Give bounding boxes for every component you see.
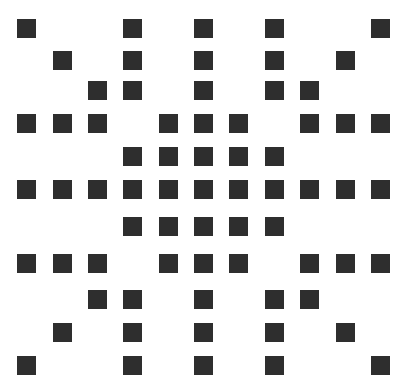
- pattern-square: [88, 114, 107, 133]
- square-pattern: [0, 0, 405, 391]
- pattern-square: [229, 147, 248, 166]
- pattern-square: [123, 217, 142, 236]
- pattern-square: [336, 51, 355, 70]
- pattern-square: [194, 217, 213, 236]
- pattern-square: [159, 147, 178, 166]
- pattern-square: [336, 254, 355, 273]
- pattern-square: [300, 81, 319, 100]
- pattern-square: [123, 290, 142, 309]
- pattern-square: [123, 81, 142, 100]
- pattern-square: [300, 180, 319, 199]
- pattern-square: [194, 147, 213, 166]
- pattern-square: [300, 290, 319, 309]
- pattern-square: [265, 19, 284, 38]
- pattern-square: [300, 254, 319, 273]
- pattern-square: [371, 356, 390, 375]
- pattern-square: [123, 19, 142, 38]
- pattern-square: [123, 180, 142, 199]
- pattern-square: [336, 180, 355, 199]
- pattern-square: [265, 180, 284, 199]
- pattern-square: [229, 217, 248, 236]
- pattern-square: [53, 323, 72, 342]
- pattern-square: [194, 356, 213, 375]
- pattern-square: [123, 147, 142, 166]
- pattern-square: [17, 180, 36, 199]
- pattern-square: [194, 51, 213, 70]
- pattern-square: [371, 114, 390, 133]
- pattern-square: [123, 356, 142, 375]
- pattern-square: [88, 81, 107, 100]
- pattern-square: [194, 114, 213, 133]
- pattern-square: [265, 356, 284, 375]
- pattern-square: [17, 19, 36, 38]
- pattern-square: [229, 180, 248, 199]
- pattern-square: [194, 254, 213, 273]
- pattern-square: [88, 290, 107, 309]
- pattern-square: [300, 114, 319, 133]
- pattern-square: [53, 254, 72, 273]
- pattern-square: [194, 323, 213, 342]
- pattern-square: [17, 114, 36, 133]
- pattern-square: [53, 114, 72, 133]
- pattern-square: [265, 290, 284, 309]
- pattern-square: [159, 114, 178, 133]
- pattern-square: [88, 180, 107, 199]
- pattern-square: [371, 180, 390, 199]
- pattern-square: [265, 217, 284, 236]
- pattern-square: [123, 323, 142, 342]
- pattern-square: [159, 254, 178, 273]
- pattern-square: [265, 51, 284, 70]
- pattern-square: [371, 19, 390, 38]
- pattern-square: [17, 254, 36, 273]
- pattern-square: [265, 81, 284, 100]
- pattern-square: [194, 19, 213, 38]
- pattern-square: [194, 81, 213, 100]
- pattern-square: [194, 290, 213, 309]
- pattern-square: [17, 356, 36, 375]
- pattern-square: [265, 147, 284, 166]
- pattern-square: [336, 114, 355, 133]
- pattern-square: [265, 323, 284, 342]
- pattern-square: [53, 180, 72, 199]
- pattern-square: [53, 51, 72, 70]
- pattern-square: [371, 254, 390, 273]
- pattern-square: [229, 114, 248, 133]
- pattern-square: [194, 180, 213, 199]
- pattern-square: [229, 254, 248, 273]
- pattern-square: [336, 323, 355, 342]
- pattern-square: [123, 51, 142, 70]
- pattern-square: [88, 254, 107, 273]
- pattern-square: [159, 180, 178, 199]
- pattern-square: [159, 217, 178, 236]
